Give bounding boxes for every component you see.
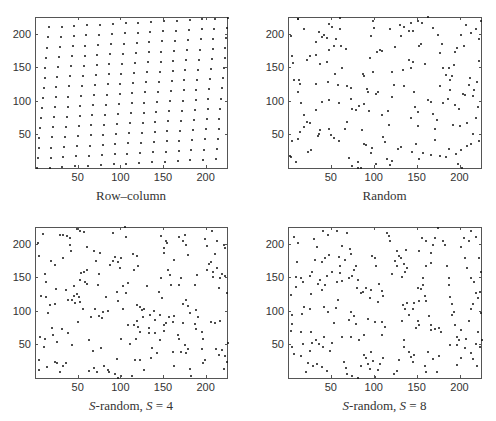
data-point xyxy=(466,145,468,147)
data-point xyxy=(77,321,79,323)
x-tick-label: 100 xyxy=(365,381,383,393)
data-point xyxy=(104,114,106,116)
x-tick xyxy=(460,227,461,230)
data-point xyxy=(382,357,384,359)
data-point xyxy=(105,296,107,298)
data-point xyxy=(185,299,187,301)
data-point xyxy=(197,69,199,71)
data-point xyxy=(442,240,444,242)
data-point xyxy=(456,344,458,346)
data-point xyxy=(386,158,388,160)
data-point xyxy=(472,133,474,135)
data-point xyxy=(422,277,424,279)
data-point xyxy=(170,90,172,92)
data-point xyxy=(219,277,221,279)
data-point xyxy=(442,102,444,104)
data-point xyxy=(315,339,317,341)
data-point xyxy=(67,96,69,98)
data-point xyxy=(311,342,313,344)
data-point xyxy=(184,344,186,346)
y-tick xyxy=(479,101,482,102)
data-point xyxy=(88,155,90,157)
data-point xyxy=(327,81,329,83)
data-point xyxy=(303,28,305,30)
data-point xyxy=(333,45,335,47)
y-tick-label: 150 xyxy=(256,271,284,283)
data-point xyxy=(478,257,480,259)
data-point xyxy=(473,89,475,91)
data-point xyxy=(119,83,121,85)
y-tick xyxy=(35,311,38,312)
data-point xyxy=(81,85,83,87)
data-point xyxy=(337,299,339,301)
data-point xyxy=(178,140,180,142)
data-point xyxy=(84,45,86,47)
data-point xyxy=(425,240,427,242)
data-point xyxy=(360,365,362,367)
data-point xyxy=(98,273,100,275)
data-point xyxy=(432,113,434,115)
x-tick xyxy=(417,375,418,378)
data-point xyxy=(163,20,165,22)
data-point xyxy=(290,330,292,332)
x-tick xyxy=(374,227,375,230)
data-point xyxy=(345,48,347,50)
data-point xyxy=(206,269,208,271)
data-point xyxy=(38,137,40,139)
data-point xyxy=(143,308,145,310)
data-point xyxy=(127,282,129,284)
data-point xyxy=(422,284,424,286)
data-point xyxy=(306,121,308,123)
caption-text: -random, S = 8 xyxy=(349,398,426,413)
data-point xyxy=(303,114,305,116)
data-point xyxy=(321,101,323,103)
data-point xyxy=(44,273,46,275)
data-point xyxy=(190,375,192,377)
data-point xyxy=(148,41,150,43)
data-point xyxy=(324,284,326,286)
data-point xyxy=(164,161,166,163)
data-point xyxy=(326,370,328,372)
data-point xyxy=(119,93,121,95)
data-point xyxy=(327,311,329,313)
data-point xyxy=(290,35,292,37)
data-point xyxy=(140,142,142,144)
data-point xyxy=(131,92,133,94)
data-point xyxy=(102,134,104,136)
data-point xyxy=(391,160,393,162)
data-point xyxy=(445,74,447,76)
data-point xyxy=(339,272,341,274)
x-tick-label: 100 xyxy=(111,171,129,183)
data-point xyxy=(204,138,206,140)
data-point xyxy=(199,49,201,51)
data-point xyxy=(290,156,292,158)
data-point xyxy=(86,246,88,248)
data-point xyxy=(86,24,88,26)
data-point xyxy=(357,161,359,163)
data-point xyxy=(321,289,323,291)
data-point xyxy=(195,89,197,91)
data-point xyxy=(442,67,444,69)
data-point xyxy=(114,256,116,258)
data-point xyxy=(72,45,74,47)
y-tick-label: 100 xyxy=(256,305,284,317)
data-point xyxy=(221,273,223,275)
data-point xyxy=(227,342,229,344)
data-point xyxy=(438,355,440,357)
data-point xyxy=(401,320,403,322)
data-point xyxy=(52,126,54,128)
data-point xyxy=(437,227,439,229)
data-point xyxy=(464,257,466,259)
data-point xyxy=(76,145,78,147)
data-point xyxy=(162,30,164,32)
data-point xyxy=(176,20,178,22)
data-point xyxy=(55,288,57,290)
data-point xyxy=(350,336,352,338)
data-point xyxy=(195,99,197,101)
data-point xyxy=(430,329,432,331)
data-point xyxy=(475,292,477,294)
data-point xyxy=(291,346,293,348)
data-point xyxy=(446,265,448,267)
data-point xyxy=(48,26,50,28)
data-point xyxy=(337,84,339,86)
